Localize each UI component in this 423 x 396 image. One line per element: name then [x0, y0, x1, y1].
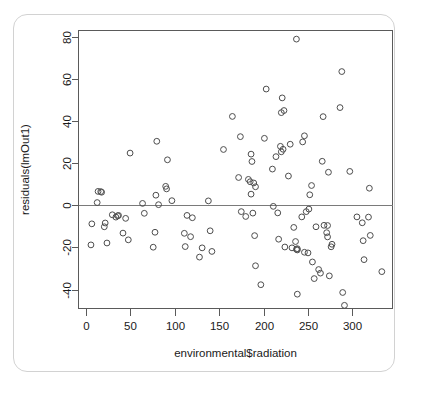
y-tick-label: 60 — [61, 73, 73, 86]
x-tick-label: 0 — [83, 320, 89, 332]
data-point — [326, 169, 332, 175]
data-point — [339, 69, 345, 75]
data-point — [248, 191, 254, 197]
data-point — [229, 114, 235, 120]
data-point — [279, 95, 285, 101]
data-point — [309, 183, 315, 189]
data-point — [141, 210, 147, 216]
y-tick-label: -40 — [61, 282, 73, 299]
data-point — [302, 133, 308, 139]
data-point — [299, 214, 305, 220]
data-point — [238, 209, 244, 215]
data-point — [275, 210, 281, 216]
data-point — [342, 302, 348, 308]
data-point — [249, 159, 255, 165]
data-point — [188, 234, 194, 240]
data-point — [273, 154, 279, 160]
data-point — [307, 192, 313, 198]
data-point — [291, 225, 297, 231]
y-tick-label: 20 — [61, 157, 73, 170]
data-point — [325, 234, 331, 240]
data-point — [270, 166, 276, 172]
x-axis-ticks: 050100150200250300 — [83, 309, 362, 332]
data-point — [354, 214, 360, 220]
x-tick-label: 250 — [299, 320, 318, 332]
data-point — [294, 291, 300, 297]
plot-svg: 050100150200250300 -40-20020406080 envir… — [0, 0, 423, 396]
data-point — [152, 229, 158, 235]
x-tick-label: 50 — [124, 320, 137, 332]
data-point — [258, 282, 264, 288]
data-point — [199, 245, 205, 251]
data-point — [320, 114, 326, 120]
data-point — [294, 36, 300, 42]
data-point — [94, 200, 100, 206]
data-point — [207, 228, 213, 234]
data-point — [252, 233, 258, 239]
data-point — [310, 259, 316, 265]
x-tick-label: 150 — [210, 320, 229, 332]
data-point — [165, 157, 171, 163]
data-point — [236, 175, 242, 181]
data-point — [243, 214, 249, 220]
y-tick-label: -20 — [61, 239, 73, 256]
data-point — [262, 135, 268, 141]
data-point — [270, 203, 276, 209]
data-point — [154, 138, 160, 144]
data-point — [287, 141, 293, 147]
data-point — [253, 263, 259, 269]
data-point — [237, 134, 243, 140]
data-point — [125, 237, 131, 243]
x-tick-label: 100 — [166, 320, 185, 332]
plot-frame — [79, 31, 393, 309]
data-point — [366, 214, 372, 220]
data-point — [316, 267, 322, 273]
y-tick-label: 40 — [61, 115, 73, 128]
data-point — [326, 273, 332, 279]
data-point — [276, 236, 282, 242]
data-point — [361, 257, 367, 263]
data-point — [366, 185, 372, 191]
data-points — [88, 36, 385, 308]
data-point — [88, 242, 94, 248]
data-point — [127, 150, 133, 156]
data-point — [360, 238, 366, 244]
y-tick-label: 0 — [61, 202, 73, 208]
data-point — [293, 239, 299, 245]
data-point — [169, 198, 175, 204]
y-axis-title: residuals(lmOut1) — [19, 124, 31, 215]
data-point — [319, 158, 325, 164]
y-axis-ticks: -40-20020406080 — [61, 31, 79, 299]
x-tick-label: 200 — [255, 320, 274, 332]
data-point — [347, 169, 353, 175]
data-point — [101, 224, 107, 230]
data-point — [311, 276, 317, 282]
data-point — [153, 192, 159, 198]
data-point — [197, 254, 203, 260]
scatter-plot: 050100150200250300 -40-20020406080 envir… — [0, 0, 423, 396]
data-point — [359, 220, 365, 226]
data-point — [248, 151, 254, 157]
data-point — [123, 215, 129, 221]
data-point — [120, 230, 126, 236]
data-point — [102, 220, 108, 226]
data-point — [337, 105, 343, 111]
y-tick-label: 80 — [61, 31, 73, 44]
data-point — [205, 198, 211, 204]
data-point — [182, 244, 188, 250]
data-point — [209, 249, 215, 255]
data-point — [156, 202, 162, 208]
data-point — [181, 230, 187, 236]
data-point — [305, 250, 311, 256]
data-point — [150, 244, 156, 250]
data-point — [379, 269, 385, 275]
data-point — [104, 240, 110, 246]
data-point — [221, 147, 227, 153]
data-point — [89, 221, 95, 227]
x-axis-title: environmental$radiation — [174, 347, 297, 359]
data-point — [313, 224, 319, 230]
x-tick-label: 300 — [343, 320, 362, 332]
data-point — [263, 86, 269, 92]
data-point — [300, 139, 306, 145]
data-point — [367, 233, 373, 239]
